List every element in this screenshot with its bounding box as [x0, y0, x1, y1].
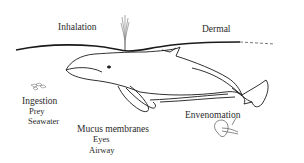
label-eyes: Eyes — [93, 134, 110, 144]
prey-fish-icon — [31, 83, 46, 90]
jellyfish-icon — [215, 118, 238, 137]
label-seawater: Seawater — [28, 116, 59, 126]
spout-plume-icon — [121, 15, 129, 50]
label-mucus-membranes: Mucus membranes — [77, 124, 149, 134]
label-prey: Prey — [29, 106, 45, 116]
label-dermal: Dermal — [202, 24, 231, 34]
label-airway: Airway — [89, 145, 115, 155]
label-envenomation: Envenomation — [185, 110, 240, 120]
whale-diagram-svg — [0, 0, 304, 163]
diagram-canvas: Inhalation Dermal Ingestion Prey Seawate… — [0, 0, 304, 163]
whale-icon — [66, 47, 268, 112]
label-ingestion: Ingestion — [22, 96, 57, 106]
water-surface-line — [16, 42, 275, 51]
label-inhalation: Inhalation — [58, 22, 97, 32]
